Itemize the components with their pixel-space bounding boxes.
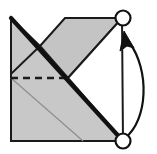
origami-diagram-canvas <box>0 0 157 154</box>
origami-diagram-figure <box>0 0 157 154</box>
bottom-right-corner-marker <box>116 134 131 149</box>
fold-motion-arrow-shaft <box>125 42 144 138</box>
